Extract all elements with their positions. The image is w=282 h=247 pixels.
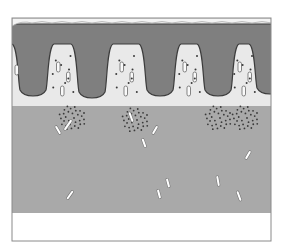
tissue-diagram [0, 0, 282, 247]
grey-submucosa-band [12, 106, 271, 213]
tissue-cross-section-illustration [0, 0, 282, 247]
